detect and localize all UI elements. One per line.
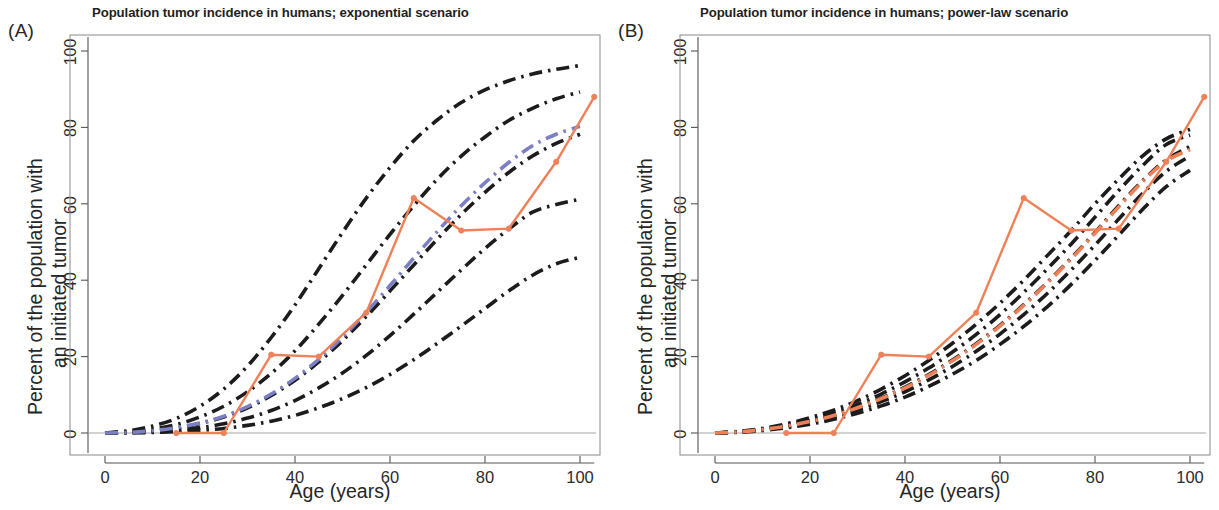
observed-data-point	[879, 352, 884, 357]
model-curve	[105, 199, 580, 433]
panel-b-plot-area	[610, 0, 1219, 510]
model-curve	[105, 134, 580, 433]
observed-data-point	[974, 310, 979, 315]
model-curve	[715, 135, 1190, 433]
model-curve	[715, 156, 1190, 433]
figure-root: (A) Population tumor incidence in humans…	[0, 0, 1219, 510]
panel-b: (B) Population tumor incidence in humans…	[610, 0, 1219, 510]
model-curve	[715, 150, 1190, 433]
observed-data-point	[554, 159, 559, 164]
model-curve	[715, 129, 1190, 433]
observed-data-point	[221, 430, 226, 435]
observed-data-point	[1021, 195, 1026, 200]
observed-data-point	[269, 352, 274, 357]
model-curve	[715, 170, 1190, 433]
model-curve	[105, 257, 580, 433]
observed-data-point	[1164, 159, 1169, 164]
panel-a-plot-area	[0, 0, 620, 510]
observed-data-point	[1202, 94, 1207, 99]
panel-a: (A) Population tumor incidence in humans…	[0, 0, 620, 510]
observed-data-point	[174, 430, 179, 435]
observed-data-point	[784, 430, 789, 435]
observed-data-point	[411, 195, 416, 200]
model-curve	[105, 92, 580, 433]
observed-data-point	[926, 354, 931, 359]
observed-data-point	[592, 94, 597, 99]
observed-data-point	[506, 226, 511, 231]
observed-data-point	[364, 310, 369, 315]
observed-data-point	[831, 430, 836, 435]
observed-data-point	[1069, 228, 1074, 233]
observed-incidence-line	[786, 97, 1204, 433]
observed-data-point	[1116, 226, 1121, 231]
observed-data-point	[316, 354, 321, 359]
observed-data-point	[459, 228, 464, 233]
